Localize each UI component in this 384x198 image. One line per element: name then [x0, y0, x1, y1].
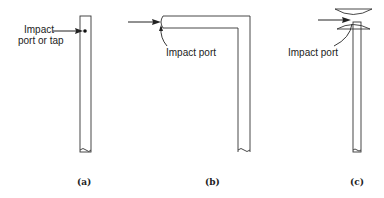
panel-b-flow-arrow [128, 19, 161, 25]
panel-a-label-line1: Impact [18, 24, 64, 35]
panel-c-flow-arrow [318, 17, 351, 23]
panel-a-label-line2: port or tap [18, 35, 64, 46]
panel-c-shield [335, 9, 372, 29]
panel-c-leader-line [334, 24, 352, 46]
panel-a-label: Impact port or tap [18, 24, 64, 46]
panel-b-caption: (b) [205, 177, 220, 187]
panel-b-label: Impact port [166, 47, 216, 58]
panel-a-tap-dot [83, 29, 87, 33]
panel-a-tube [80, 16, 91, 152]
panel-a-caption: (a) [77, 177, 91, 187]
panel-c-caption: (c) [350, 177, 364, 187]
panel-c-label: Impact port [288, 47, 338, 58]
panel-c-tube [353, 22, 361, 152]
panel-b-tube [161, 16, 250, 152]
